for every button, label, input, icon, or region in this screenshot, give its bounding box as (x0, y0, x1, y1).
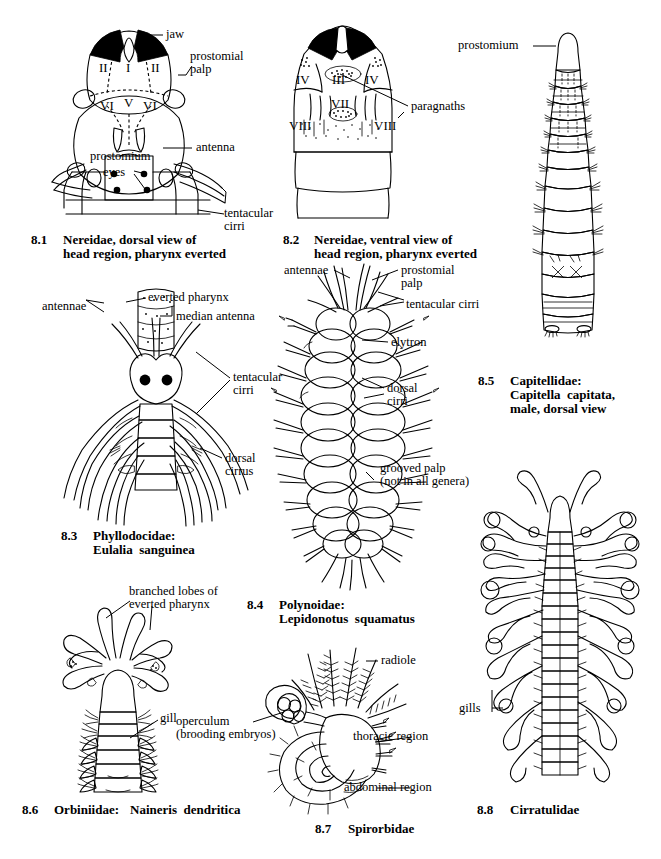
figure-8-8-leaders (0, 0, 661, 859)
illustration-plate: jaw prostomial palp antenna prostomium e… (0, 0, 661, 859)
caption-8-8-number: 8.8 (477, 803, 493, 818)
caption-8-8-line1: Cirratulidae (510, 803, 579, 818)
label-gills: gills (459, 702, 481, 716)
